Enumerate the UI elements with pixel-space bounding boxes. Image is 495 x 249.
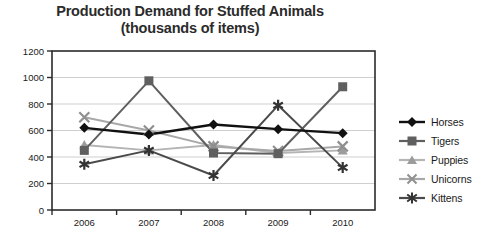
legend-item-unicorns[interactable]: Unicorns (398, 169, 493, 188)
x-marker-icon (398, 172, 426, 186)
x-axis-tick-label: 2010 (332, 217, 353, 228)
data-point-tigers-2009 (274, 149, 283, 158)
x-axis-tick-label: 2008 (203, 217, 224, 228)
x-axis-tick-label: 2009 (268, 217, 289, 228)
y-axis-tick-label: 400 (28, 152, 44, 163)
legend-label-horses: Horses (431, 116, 464, 128)
chart-series-markers (79, 76, 347, 181)
data-point-tigers-2007 (144, 76, 153, 85)
legend-label-kittens: Kittens (431, 192, 462, 204)
legend-label-unicorns: Unicorns (431, 173, 472, 185)
y-axis-tick-label: 800 (28, 99, 44, 110)
data-point-horses-2008 (209, 120, 219, 130)
chart-legend: Horses Tigers Puppies Unicorns (398, 112, 493, 207)
data-point-horses-2009 (273, 124, 283, 134)
chart-y-axis-labels: 020040060080010001200 (23, 46, 44, 216)
diamond-marker-icon (398, 115, 426, 129)
x-axis-tick-label: 2007 (138, 217, 159, 228)
legend-item-puppies[interactable]: Puppies (398, 150, 493, 169)
triangle-marker-icon (398, 153, 426, 167)
data-point-tigers-2010 (338, 82, 347, 91)
x-axis-tick-label: 2006 (74, 217, 95, 228)
y-axis-tick-label: 600 (28, 125, 44, 136)
legend-item-kittens[interactable]: Kittens (398, 188, 493, 207)
y-axis-tick-label: 0 (39, 205, 44, 216)
legend-item-horses[interactable]: Horses (398, 112, 493, 131)
data-point-horses-2006 (79, 123, 89, 133)
y-axis-tick-label: 200 (28, 178, 44, 189)
data-point-tigers-2006 (80, 146, 89, 155)
legend-label-tigers: Tigers (431, 135, 459, 147)
legend-item-tigers[interactable]: Tigers (398, 131, 493, 150)
data-point-horses-2010 (338, 128, 348, 138)
asterisk-marker-icon (398, 191, 426, 205)
y-axis-tick-label: 1200 (23, 46, 44, 57)
legend-label-puppies: Puppies (431, 154, 468, 166)
chart-x-axis-labels: 20062007200820092010 (74, 217, 354, 228)
square-marker-icon (398, 134, 426, 148)
data-point-tigers-2008 (209, 149, 218, 158)
chart-container: Production Demand for Stuffed Animals (t… (0, 0, 495, 249)
y-axis-tick-label: 1000 (23, 72, 44, 83)
